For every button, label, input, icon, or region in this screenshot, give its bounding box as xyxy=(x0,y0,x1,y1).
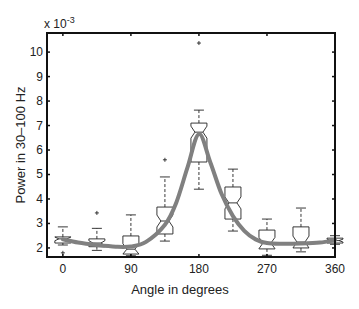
y-multiplier-exponent: -3 xyxy=(67,15,75,25)
x-tick-label: 360 xyxy=(325,262,345,276)
outlier-marker xyxy=(197,41,201,45)
x-tick-label: 0 xyxy=(60,262,67,276)
y-tick-label: 4 xyxy=(36,192,43,206)
box-180 xyxy=(191,41,207,189)
y-multiplier-label: x 10-3 xyxy=(44,15,75,31)
box-270 xyxy=(259,219,275,255)
y-tick-label: 7 xyxy=(36,119,43,133)
outlier-marker xyxy=(163,158,167,162)
x-tick-label: 90 xyxy=(124,262,138,276)
y-axis-label: Power in 30–100 Hz xyxy=(13,86,28,203)
box-plots xyxy=(55,41,343,256)
y-tick-label: 5 xyxy=(36,167,43,181)
y-tick-label: 10 xyxy=(30,45,44,59)
chart: 090180270360 2345678910 x 10-3 Angle in … xyxy=(0,0,359,309)
y-tick-label: 6 xyxy=(36,143,43,157)
box-body xyxy=(259,230,275,249)
y-tick-label: 9 xyxy=(36,70,43,84)
x-axis-label: Angle in degrees xyxy=(131,282,229,297)
y-tick-label: 8 xyxy=(36,94,43,108)
x-tick-label: 180 xyxy=(189,262,209,276)
box-90 xyxy=(123,215,139,256)
x-tick-label: 270 xyxy=(257,262,277,276)
y-axis-ticks: 2345678910 xyxy=(30,45,335,255)
outlier-marker xyxy=(95,211,99,215)
y-tick-label: 3 xyxy=(36,216,43,230)
y-tick-label: 2 xyxy=(36,241,43,255)
